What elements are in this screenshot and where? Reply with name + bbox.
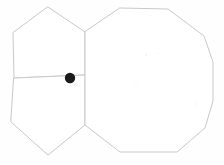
paper-speck bbox=[59, 111, 60, 112]
paper-speck bbox=[35, 139, 36, 140]
paper-speck bbox=[135, 81, 137, 83]
paper-speck bbox=[157, 52, 158, 53]
upper-left-pentagon bbox=[13, 7, 85, 78]
figure-canvas bbox=[0, 0, 224, 165]
paper-speck bbox=[189, 139, 191, 141]
right-decagon bbox=[85, 8, 213, 152]
polygon-figure bbox=[0, 0, 224, 165]
paper-speck bbox=[149, 15, 151, 17]
lower-left-pentagon bbox=[11, 75, 85, 155]
paper-speck bbox=[111, 51, 112, 52]
paper-speck bbox=[195, 103, 197, 105]
paper-speck bbox=[164, 87, 165, 88]
shared-vertex-marker bbox=[65, 73, 75, 83]
paper-speck bbox=[145, 54, 147, 56]
